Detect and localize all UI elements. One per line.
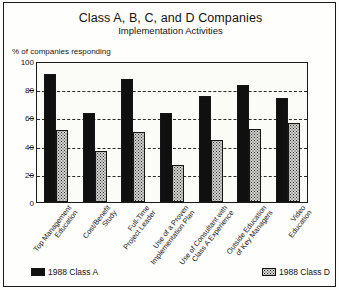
y-axis-tick-mark bbox=[29, 175, 34, 176]
bar bbox=[249, 129, 261, 202]
bar bbox=[160, 113, 172, 202]
bar bbox=[172, 165, 184, 202]
bar bbox=[133, 132, 145, 203]
bar-group bbox=[121, 63, 145, 202]
legend-swatch-class-d bbox=[262, 268, 276, 276]
bar-group bbox=[83, 63, 107, 202]
plot-area bbox=[36, 62, 308, 203]
y-axis-label: % of companies responding bbox=[12, 47, 111, 56]
plot-wrapper bbox=[36, 62, 308, 203]
x-axis-tick-label: VideoEducation bbox=[281, 204, 314, 240]
y-axis: 100806040200 bbox=[4, 62, 34, 203]
y-axis-tick-mark bbox=[29, 147, 34, 148]
bar bbox=[44, 74, 56, 202]
x-axis-labels: Top ManagementEducationCost/BenefitStudy… bbox=[36, 204, 336, 266]
chart-subtitle: Implementation Activities bbox=[4, 25, 337, 37]
bar-group bbox=[199, 63, 223, 202]
chart-legend: 1988 Class A 1988 Class D bbox=[7, 264, 339, 284]
bar-group bbox=[237, 63, 261, 202]
legend-label-class-a: 1988 Class A bbox=[48, 267, 98, 277]
bar-group bbox=[44, 63, 68, 202]
bar bbox=[288, 123, 300, 202]
chart-frame: Class A, B, C, and D Companies Implement… bbox=[3, 2, 336, 287]
title-block: Class A, B, C, and D Companies Implement… bbox=[4, 11, 337, 37]
legend-label-class-d: 1988 Class D bbox=[279, 267, 330, 277]
y-axis-tick-mark bbox=[29, 90, 34, 91]
bar bbox=[56, 130, 68, 202]
bar bbox=[237, 85, 249, 202]
y-axis-tick-label: 0 bbox=[10, 199, 34, 208]
chart-title: Class A, B, C, and D Companies bbox=[4, 11, 337, 25]
chart-screenshot: Class A, B, C, and D Companies Implement… bbox=[0, 0, 339, 290]
x-axis-tick-label: Cost/BenefitStudy bbox=[82, 204, 120, 246]
bar bbox=[211, 140, 223, 202]
bar bbox=[199, 96, 211, 202]
y-axis-tick-mark bbox=[29, 118, 34, 119]
bar bbox=[83, 113, 95, 202]
y-axis-tick-label: 100 bbox=[10, 58, 34, 67]
bar-series-container bbox=[37, 63, 307, 202]
bar bbox=[276, 98, 288, 202]
legend-item-class-a: 1988 Class A bbox=[31, 267, 98, 277]
bar bbox=[121, 79, 133, 202]
bar-group bbox=[160, 63, 184, 202]
legend-swatch-class-a bbox=[31, 268, 45, 276]
bar bbox=[95, 151, 107, 202]
legend-item-class-d: 1988 Class D bbox=[262, 267, 330, 277]
bar-group bbox=[276, 63, 300, 202]
x-axis-tick-label: Top ManagementEducation bbox=[33, 204, 81, 259]
